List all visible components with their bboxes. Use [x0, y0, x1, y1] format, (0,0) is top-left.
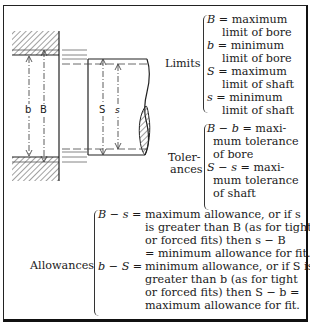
bore-min-label: b [25, 104, 31, 116]
limit-item-desc: limit of shaft [222, 79, 294, 91]
allowances-label: Allowances [30, 260, 94, 272]
tolerance-item-desc: mum tolerance [213, 175, 299, 187]
allowance-expr: B − s = [98, 209, 141, 221]
limit-item-desc: limit of shaft [222, 105, 294, 117]
shaft-max-label: S [99, 104, 105, 116]
bore-max-label: B [40, 104, 47, 116]
allowance-desc-line: maximum allowance, or if s [145, 209, 301, 221]
limit-item-desc: limit of bore [222, 53, 292, 65]
limit-item: s = minimum [207, 92, 283, 104]
allowance-desc-line: = minimum allowance for fit. [145, 248, 310, 260]
tolerance-item: B − b = maxi- [207, 123, 286, 135]
limit-item: S = maximum [207, 66, 287, 78]
allowance-desc-line: minimum allowance, or if S is [145, 261, 310, 273]
tolerances-label-line2: ances [170, 164, 203, 176]
limit-item: B = maximum [207, 14, 287, 26]
allowance-desc-line: or forced fits) then s − B [145, 235, 286, 247]
limits-label: Limits [165, 58, 200, 70]
tolerance-item: S − s = maxi- [207, 162, 284, 174]
allowance-desc-line: is greater than B (as for tight [145, 222, 310, 234]
limit-item-desc: limit of bore [222, 27, 292, 39]
allowance-desc-line: maximum allowance for fit. [145, 300, 300, 312]
allowance-desc-line: greater than b (as for tight [145, 274, 298, 286]
shaft-min-label: s [115, 104, 120, 116]
tolerance-item-desc: of shaft [213, 188, 256, 200]
allowance-expr: b − S = [98, 261, 142, 273]
allowance-desc-line: or forced fits) then S − b = [145, 287, 299, 299]
limit-item: b = minimum [207, 40, 284, 52]
tolerance-item-desc: of bore [213, 149, 253, 161]
tolerance-item-desc: mum tolerance [213, 136, 299, 148]
